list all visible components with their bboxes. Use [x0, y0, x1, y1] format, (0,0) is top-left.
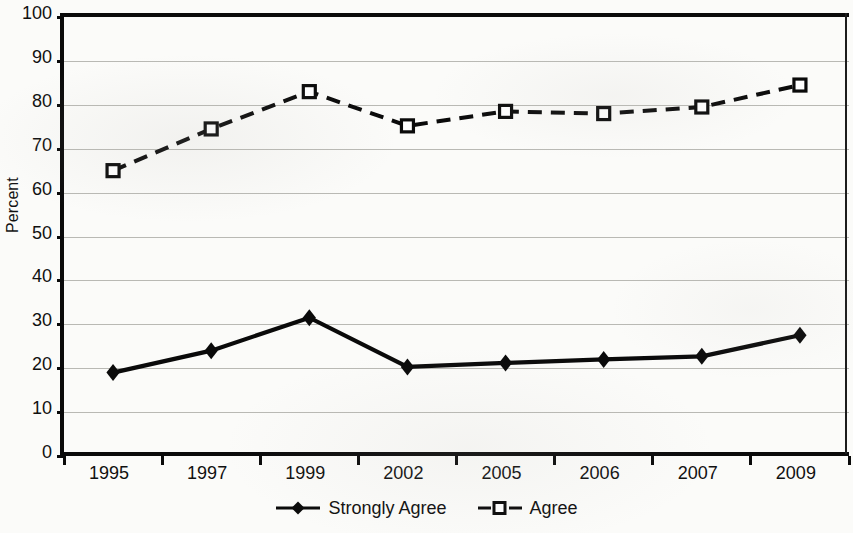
x-axis-tick-label-group: 19951997199920022005200620072009: [60, 462, 845, 492]
data-point-agree-2002: Agree 2002: 75.2: [401, 120, 413, 132]
y-axis-tick-label: 70: [10, 136, 52, 154]
data-point-agree-2009: Agree 2009: 84.5: [794, 79, 806, 91]
x-axis-line: [60, 452, 849, 456]
data-point-strongly-agree-2002: Strongly Agree 2002: 20.3: [401, 358, 414, 375]
y-axis-tick-label: 50: [10, 224, 52, 242]
y-axis-tick-label: 90: [10, 48, 52, 66]
x-axis-tick-label: 2007: [649, 462, 747, 484]
y-axis-tick-mark: [57, 16, 64, 19]
series-line-strongly-agree: [113, 318, 800, 373]
chart-legend: Strongly Agree Agree: [0, 498, 853, 518]
y-axis-tick-mark: [57, 236, 64, 239]
y-axis-tick-mark: [57, 411, 64, 414]
y-axis-tick-mark: [57, 104, 64, 107]
x-axis-tick-label: 2002: [354, 462, 452, 484]
data-point-strongly-agree-2005: Strongly Agree 2005: 21.2: [499, 354, 512, 371]
data-point-agree-1997: Agree 1997: 74.5: [205, 123, 217, 135]
plot-area: Strongly Agree 1995: 19Strongly Agree 19…: [60, 13, 849, 456]
filled-diamond-marker-icon: [275, 500, 321, 516]
y-axis-tick-label: 100: [10, 4, 52, 22]
series-strongly-agree: Strongly Agree 1995: 19Strongly Agree 19…: [106, 309, 806, 381]
y-axis-tick-label-group: 0102030405060708090100: [0, 0, 52, 533]
data-point-agree-1999: Agree 1999: 83: [303, 86, 315, 98]
y-axis-tick-mark: [57, 279, 64, 282]
x-axis-tick-mark: [848, 456, 851, 465]
plot-right-border: [845, 13, 847, 454]
legend-label-strongly-agree: Strongly Agree: [328, 498, 446, 518]
legend-entry-agree[interactable]: Agree: [477, 498, 578, 518]
y-axis-tick-label: 10: [10, 399, 52, 417]
y-axis-tick-label: 30: [10, 311, 52, 329]
data-point-strongly-agree-1997: Strongly Agree 1997: 24: [205, 342, 218, 359]
x-axis-tick-label: 2006: [551, 462, 649, 484]
y-axis-tick-mark: [57, 192, 64, 195]
data-point-strongly-agree-1995: Strongly Agree 1995: 19: [106, 364, 119, 381]
x-axis-tick-label: 1995: [60, 462, 158, 484]
y-axis-tick-mark: [57, 367, 64, 370]
y-axis-tick-mark: [57, 148, 64, 151]
y-axis-tick-label: 60: [10, 180, 52, 198]
x-axis-tick-label: 1997: [158, 462, 256, 484]
legend-label-agree: Agree: [530, 498, 578, 518]
data-point-strongly-agree-2006: Strongly Agree 2006: 22: [597, 351, 610, 368]
data-point-agree-2005: Agree 2005: 78.5: [500, 105, 512, 117]
x-axis-tick-label: 1999: [256, 462, 354, 484]
y-axis-tick-mark: [57, 323, 64, 326]
y-axis-tick-label: 80: [10, 92, 52, 110]
y-axis-tick-label: 40: [10, 267, 52, 285]
series-agree: Agree 1995: 65Agree 1997: 74.5Agree 1999…: [107, 79, 806, 177]
x-axis-tick-label: 2009: [747, 462, 845, 484]
line-chart-figure: Percent 0102030405060708090100 Strongly …: [0, 0, 853, 533]
y-axis-tick-label: 20: [10, 355, 52, 373]
data-series-layer: Strongly Agree 1995: 19Strongly Agree 19…: [64, 17, 849, 456]
open-square-marker-icon: [477, 500, 523, 516]
data-point-strongly-agree-1999: Strongly Agree 1999: 31.5: [303, 309, 316, 326]
data-point-agree-2006: Agree 2006: 78: [598, 108, 610, 120]
x-axis-tick-label: 2005: [453, 462, 551, 484]
data-point-strongly-agree-2009: Strongly Agree 2009: 27.5: [793, 327, 806, 344]
data-point-agree-1995: Agree 1995: 65: [107, 165, 119, 177]
data-point-strongly-agree-2007: Strongly Agree 2007: 22.7: [695, 348, 708, 365]
data-point-agree-2007: Agree 2007: 79.5: [696, 101, 708, 113]
y-axis-tick-mark: [57, 60, 64, 63]
legend-entry-strongly-agree[interactable]: Strongly Agree: [275, 498, 446, 518]
y-axis-tick-label: 0: [10, 443, 52, 461]
